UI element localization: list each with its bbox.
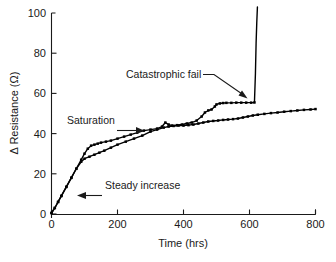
data-point [57,201,60,204]
data-point [283,110,286,113]
data-point [182,124,185,127]
data-point [235,101,238,104]
saturation-arrowhead [136,127,144,134]
catastrophic-fail-leader [203,75,245,97]
data-point [80,160,83,163]
data-point [215,103,218,106]
data-point [149,130,152,133]
data-point [257,113,260,116]
data-point [217,119,220,122]
data-point [192,123,195,126]
data-point [210,108,213,111]
data-point [83,157,86,160]
data-point [65,186,68,189]
data-point [116,137,119,140]
data-point [303,109,306,112]
data-point [296,109,299,112]
data-point [245,101,248,104]
data-point [227,118,230,121]
data-point [83,152,86,155]
y-tick-label-40: 40 [34,128,46,140]
data-point [252,114,255,117]
data-point [125,140,128,143]
x-axis-tick-labels: 0 200 400 600 800 [48,218,324,230]
y-tick-label-20: 20 [34,168,46,180]
data-point [156,128,159,131]
data-point [105,140,108,143]
x-tick-label-400: 400 [174,218,192,230]
data-point [232,118,235,121]
annotation-saturation: Saturation [67,114,144,134]
data-point [90,144,93,147]
data-point [290,110,293,113]
data-point [222,119,225,122]
data-point [75,168,78,171]
data-point [197,122,200,125]
data-point [250,101,253,104]
x-tick-label-600: 600 [240,218,258,230]
data-point [242,116,245,119]
data-point [93,143,96,146]
y-axis-tick-labels: 100 80 60 40 20 0 [28,7,46,220]
data-point [88,155,91,158]
data-point [222,102,225,105]
data-point [237,117,240,120]
data-point [247,115,250,118]
data-point [200,115,203,118]
data-point [225,102,228,105]
data-point [116,143,119,146]
data-point [96,142,99,145]
data-point [164,121,167,124]
annotation-steady-increase: Steady increase [77,179,180,199]
x-axis-ticks [52,210,316,215]
data-point [204,111,207,114]
data-point [207,109,210,112]
annotation-catastrophic-fail: Catastrophic fail [126,68,248,99]
data-point [162,126,165,129]
data-point [187,124,190,127]
data-series-layer [50,7,317,214]
y-tick-label-100: 100 [28,7,46,19]
data-point [133,137,136,140]
data-point [87,147,90,150]
x-axis-title: Time (hrs) [158,237,208,249]
data-point [253,101,256,104]
data-point [110,139,113,142]
y-axis-line [52,13,56,218]
y-axis-ticks [52,53,57,214]
resistance-vs-time-chart: 100 80 60 40 20 0 0 200 400 600 800 Time… [0,0,336,262]
data-point [314,108,317,111]
y-tick-label-0: 0 [40,208,46,220]
catastrophic-fail-label: Catastrophic fail [126,68,201,80]
saturation-label: Saturation [67,114,115,126]
y-tick-label-60: 60 [34,87,46,99]
data-point [70,177,73,180]
data-point [219,102,222,105]
x-tick-label-0: 0 [48,218,54,230]
data-point [202,121,205,124]
x-tick-label-200: 200 [108,218,126,230]
data-point [167,125,170,128]
steady-increase-label: Steady increase [105,179,180,191]
data-point [123,135,126,138]
data-point [54,207,57,210]
data-point [177,124,180,127]
y-tick-label-80: 80 [34,47,46,59]
data-point [50,212,53,215]
data-point [263,113,266,116]
x-tick-label-800: 800 [306,218,324,230]
y-axis-title: Δ Resistance (Ω) [8,72,20,155]
catastrophic-fail-arrowhead [239,91,248,99]
data-point [60,195,63,198]
chart-figure: 100 80 60 40 20 0 0 200 400 600 800 Time… [0,0,336,262]
data-point [110,146,113,149]
data-point [230,102,233,105]
data-point [141,134,144,137]
data-point [172,125,175,128]
data-point [103,149,106,152]
data-point [309,108,312,111]
data-point [270,112,273,115]
data-point [93,153,96,156]
data-point [276,111,279,114]
data-point [212,120,215,123]
